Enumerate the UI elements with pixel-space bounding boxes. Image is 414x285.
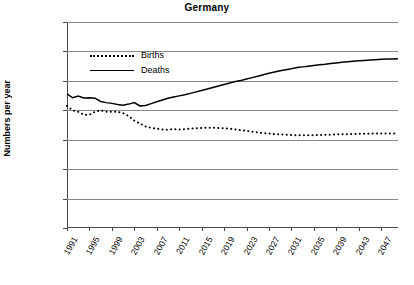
chart-title: Germany [0, 2, 414, 13]
legend-swatch-deaths-icon [90, 70, 134, 71]
legend-label-deaths: Deaths [141, 66, 170, 75]
y-axis-label: Numbers per year [2, 80, 14, 157]
x-tick-label: 2047 [376, 235, 394, 256]
series-line-births [67, 106, 398, 135]
legend-label-births: Births [141, 51, 164, 60]
x-tick-label: 2023 [241, 235, 259, 256]
x-tick-label: 2031 [286, 235, 304, 256]
legend-item-deaths: Deaths [90, 63, 170, 78]
chart-container: Germany Numbers per year 1,400,0001,200,… [0, 0, 414, 285]
x-tick-label: 2015 [196, 235, 214, 256]
legend: Births Deaths [90, 48, 170, 78]
x-tick-label: 2011 [174, 235, 192, 256]
x-tick-label: 2019 [219, 235, 237, 256]
legend-swatch-births-icon [90, 55, 134, 57]
x-tick-label: 2007 [151, 235, 169, 256]
x-tick-label: 2043 [353, 235, 371, 256]
x-tick-label: 2039 [331, 235, 349, 256]
legend-item-births: Births [90, 48, 170, 63]
x-tick-label: 1999 [106, 235, 124, 256]
x-tick-label: 1995 [84, 235, 102, 256]
x-tick-label: 2003 [129, 235, 147, 256]
x-tick-label: 1991 [62, 235, 80, 256]
x-tick-label: 2027 [263, 235, 281, 256]
x-tick-label: 2035 [308, 235, 326, 256]
